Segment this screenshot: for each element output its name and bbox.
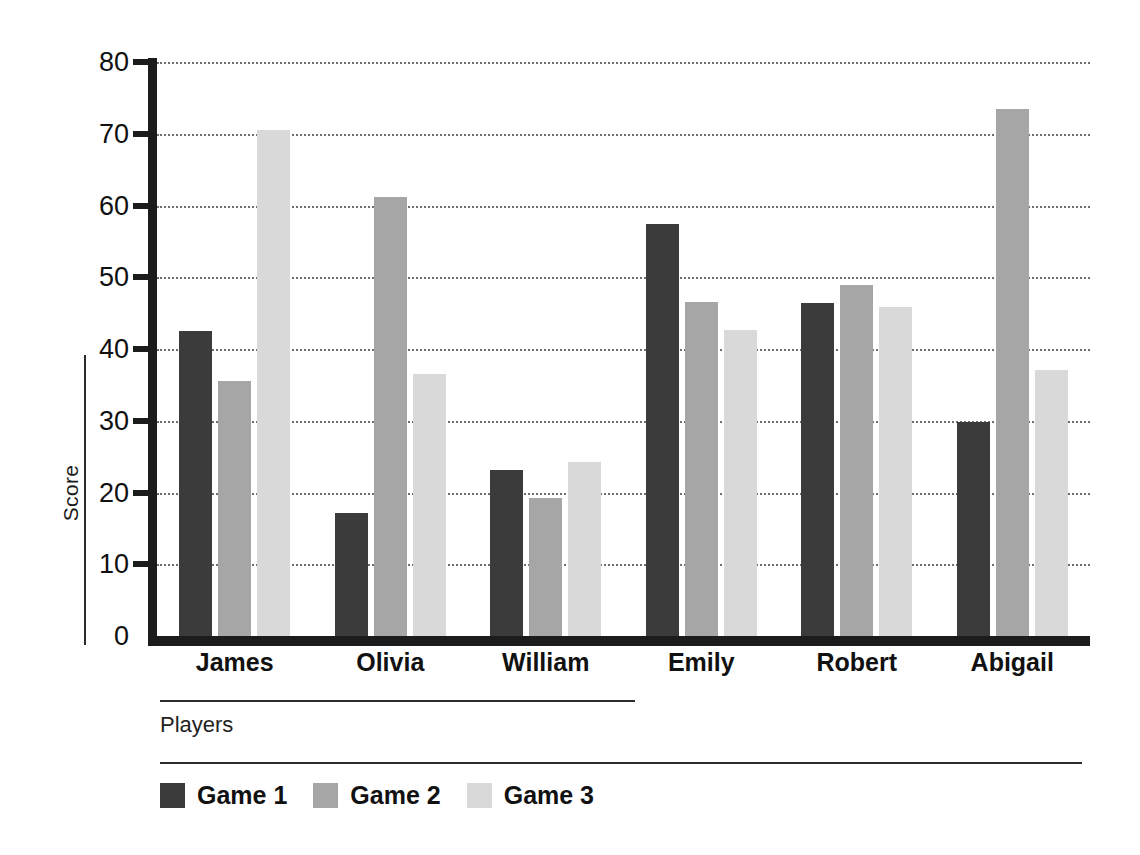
y-axis-spine xyxy=(148,58,157,640)
bar[interactable] xyxy=(218,381,251,636)
y-tick-label: 30 xyxy=(99,407,129,434)
y-tick-label: 20 xyxy=(99,479,129,506)
x-tick-label: Emily xyxy=(624,648,780,677)
bar[interactable] xyxy=(490,470,523,636)
bar-group xyxy=(468,62,624,636)
bar[interactable] xyxy=(801,303,834,636)
bar[interactable] xyxy=(840,285,873,636)
x-axis-label-rule xyxy=(160,700,635,702)
tick-mark xyxy=(133,203,148,209)
y-tick-label: 0 xyxy=(114,623,129,650)
x-tick-label: Robert xyxy=(779,648,935,677)
bar[interactable] xyxy=(996,109,1029,636)
x-tick-label: James xyxy=(157,648,313,677)
bar-group xyxy=(313,62,469,636)
tick-mark xyxy=(133,59,148,65)
tick-mark xyxy=(133,418,148,424)
bar[interactable] xyxy=(335,513,368,636)
x-tick-label: William xyxy=(468,648,624,677)
y-tick-label: 60 xyxy=(99,192,129,219)
bar-chart: Score 01020304050607080 JamesOliviaWilli… xyxy=(0,0,1140,855)
y-axis-label-group: Score xyxy=(48,355,88,645)
legend-swatch-icon xyxy=(160,783,185,808)
bar[interactable] xyxy=(529,498,562,636)
tick-mark xyxy=(133,346,148,352)
bar[interactable] xyxy=(957,422,990,636)
y-axis-label: Score xyxy=(59,423,83,563)
x-axis-label: Players xyxy=(160,712,233,738)
bar[interactable] xyxy=(879,307,912,636)
legend-swatch-icon xyxy=(467,783,492,808)
y-tick-label: 40 xyxy=(99,336,129,363)
x-axis-spine xyxy=(148,636,1090,646)
legend-item[interactable]: Game 2 xyxy=(313,781,440,810)
tick-mark xyxy=(133,561,148,567)
bar-group xyxy=(935,62,1091,636)
bar[interactable] xyxy=(646,224,679,636)
legend-swatch-icon xyxy=(313,783,338,808)
legend-item[interactable]: Game 3 xyxy=(467,781,594,810)
legend: Game 1Game 2Game 3 xyxy=(160,781,594,810)
bar[interactable] xyxy=(374,197,407,636)
y-axis-label-rule xyxy=(84,355,86,645)
legend-label: Game 2 xyxy=(350,781,440,810)
bar[interactable] xyxy=(685,302,718,636)
legend-label: Game 1 xyxy=(197,781,287,810)
legend-label: Game 3 xyxy=(504,781,594,810)
bar-groups xyxy=(157,62,1090,636)
y-tick-label: 10 xyxy=(99,551,129,578)
x-axis-tick-labels: JamesOliviaWilliamEmilyRobertAbigail xyxy=(157,648,1090,677)
tick-mark xyxy=(133,490,148,496)
legend-item[interactable]: Game 1 xyxy=(160,781,287,810)
bar[interactable] xyxy=(179,331,212,636)
x-tick-label: Olivia xyxy=(313,648,469,677)
y-tick-label: 70 xyxy=(99,120,129,147)
bar[interactable] xyxy=(724,330,757,636)
plot-area: 01020304050607080 xyxy=(157,62,1090,636)
bar[interactable] xyxy=(257,130,290,636)
bar[interactable] xyxy=(568,462,601,636)
tick-mark xyxy=(133,274,148,280)
bar[interactable] xyxy=(413,374,446,636)
x-tick-label: Abigail xyxy=(935,648,1091,677)
bar[interactable] xyxy=(1035,370,1068,636)
legend-rule xyxy=(160,762,1082,764)
bar-group xyxy=(779,62,935,636)
tick-mark xyxy=(133,131,148,137)
y-tick-label: 80 xyxy=(99,49,129,76)
y-tick-label: 50 xyxy=(99,264,129,291)
bar-group xyxy=(624,62,780,636)
bar-group xyxy=(157,62,313,636)
